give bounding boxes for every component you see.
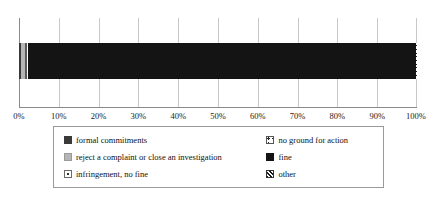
x-tick-label-90: 90% <box>369 110 385 122</box>
bar-segment-other <box>416 43 417 79</box>
legend-item-infringement-no-fine: infringement, no fine <box>64 166 266 182</box>
x-tick-label-10: 10% <box>51 110 67 122</box>
x-tick-label-30: 30% <box>131 110 147 122</box>
x-tick-label-20: 20% <box>91 110 107 122</box>
legend-label-reject-complaint: reject a complaint or close an investiga… <box>76 152 222 162</box>
legend-label-no-ground-for-action: no ground for action <box>278 135 348 145</box>
x-axis-line <box>19 107 417 108</box>
legend-label-formal-commitments: formal commitments <box>76 135 147 145</box>
x-tick-label-0: 0% <box>13 110 24 122</box>
legend-label-fine: fine <box>278 152 291 162</box>
x-tick-label-100: 100% <box>406 110 426 122</box>
no-ground-for-action-swatch <box>266 136 274 144</box>
fine-swatch <box>266 153 274 161</box>
x-tick-label-70: 70% <box>290 110 306 122</box>
legend-label-infringement-no-fine: infringement, no fine <box>76 169 148 179</box>
other-swatch <box>266 170 274 178</box>
chart-legend: formal commitments reject a complaint or… <box>53 126 384 188</box>
x-tick-label-40: 40% <box>170 110 186 122</box>
x-tick-label-80: 80% <box>330 110 346 122</box>
legend-item-no-ground-for-action: no ground for action <box>266 132 375 148</box>
stacked-bar-chart: 0% 10% 20% 30% 40% 50% 60% 70% 80% 90% 1… <box>0 0 439 199</box>
legend-item-other: other <box>266 166 375 182</box>
x-axis-tick-labels: 0% 10% 20% 30% 40% 50% 60% 70% 80% 90% 1… <box>0 110 439 124</box>
legend-item-reject-complaint: reject a complaint or close an investiga… <box>64 149 266 165</box>
legend-column-left: formal commitments reject a complaint or… <box>64 132 266 182</box>
x-tick-label-50: 50% <box>210 110 226 122</box>
formal-commitments-swatch <box>64 136 72 144</box>
legend-column-right: no ground for action fine other <box>266 132 375 182</box>
legend-label-other: other <box>278 169 295 179</box>
bar-segment-fine <box>28 43 416 79</box>
legend-item-formal-commitments: formal commitments <box>64 132 266 148</box>
x-tick-label-60: 60% <box>250 110 266 122</box>
stacked-bar-row <box>19 43 417 79</box>
infringement-no-fine-swatch <box>64 170 72 178</box>
reject-complaint-swatch <box>64 153 72 161</box>
legend-item-fine: fine <box>266 149 375 165</box>
